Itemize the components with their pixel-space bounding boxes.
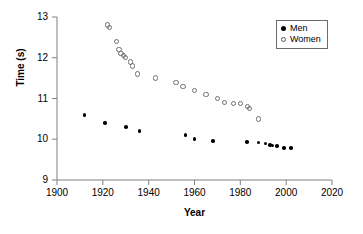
data-point-men — [271, 144, 275, 148]
legend-item-men: Men — [281, 23, 321, 34]
data-point-men — [282, 146, 286, 150]
data-point-women — [180, 84, 185, 89]
data-point-men — [257, 141, 261, 145]
legend: Men Women — [276, 20, 328, 49]
data-point-women — [203, 92, 208, 97]
data-point-women — [215, 96, 220, 101]
data-point-women — [107, 25, 112, 30]
legend-label-women: Women — [290, 34, 321, 45]
data-point-women — [222, 100, 227, 105]
data-point-men — [184, 133, 188, 137]
legend-item-women: Women — [281, 34, 321, 45]
data-point-men — [124, 125, 128, 129]
data-point-women — [114, 39, 119, 44]
data-point-women — [130, 63, 135, 68]
legend-label-men: Men — [290, 23, 308, 34]
data-point-men — [289, 146, 293, 150]
data-point-men — [138, 129, 142, 133]
data-point-men — [245, 140, 249, 144]
data-point-men — [193, 137, 197, 141]
data-point-men — [211, 139, 215, 143]
data-point-women — [238, 101, 243, 106]
data-point-women — [153, 75, 158, 80]
data-point-women — [135, 71, 140, 76]
data-point-men — [264, 142, 268, 146]
data-point-women — [192, 88, 197, 93]
data-point-women — [231, 101, 236, 106]
scatter-chart: 13 12 11 10 9 1900 1920 1940 1960 1980 2… — [0, 0, 363, 234]
filled-circle-icon — [281, 26, 286, 31]
data-point-men — [275, 144, 279, 148]
data-point-women — [256, 116, 261, 121]
data-point-men — [103, 121, 107, 125]
data-point-women — [247, 106, 252, 111]
data-point-men — [83, 113, 87, 117]
data-point-women — [173, 80, 178, 85]
open-circle-icon — [281, 37, 286, 42]
